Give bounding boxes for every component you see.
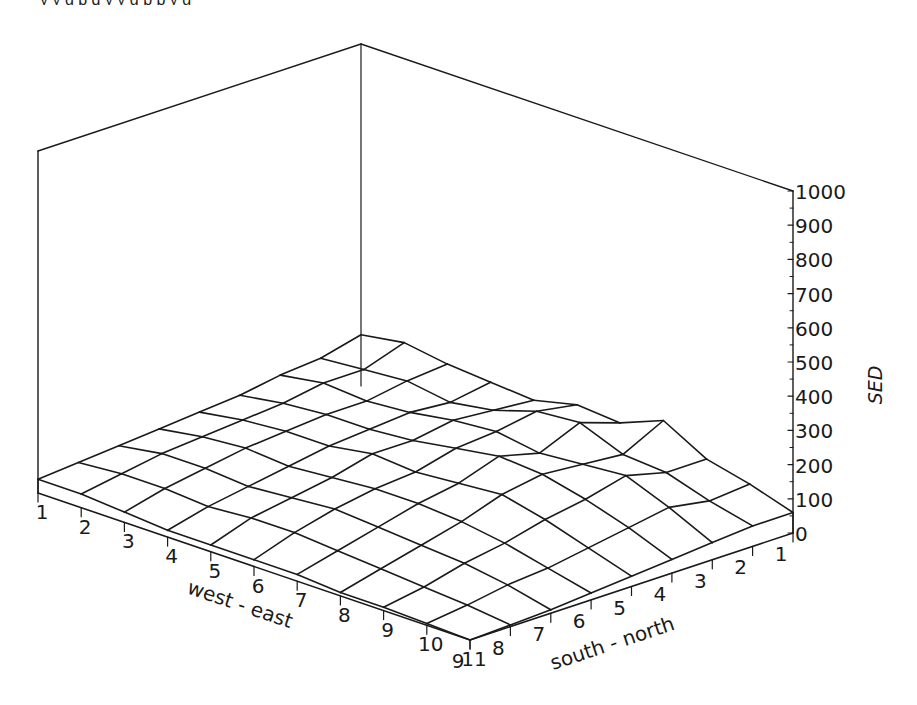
mesh-line <box>159 429 202 437</box>
mesh-line <box>505 543 548 568</box>
mesh-line <box>453 420 496 431</box>
mesh-line <box>427 605 467 624</box>
y-tick-label: 4 <box>654 582 667 606</box>
mesh-line <box>542 464 582 474</box>
mesh-line <box>499 453 539 456</box>
x-tick-label: 1 <box>36 500 49 524</box>
y-tick-label: 2 <box>734 555 747 579</box>
z-tick-label: 0 <box>795 522 808 546</box>
mesh-line <box>246 431 286 448</box>
z-tick-label: 900 <box>795 214 833 238</box>
mesh-line <box>588 548 631 576</box>
mesh-line <box>447 364 490 382</box>
mesh-line <box>629 507 669 527</box>
mesh-line <box>280 358 320 375</box>
z-tick-label: 800 <box>795 248 833 272</box>
mesh-line <box>124 512 167 530</box>
mesh-line <box>292 478 332 498</box>
mesh-line <box>499 456 542 474</box>
mesh-line <box>496 411 536 431</box>
mesh-line <box>326 401 366 414</box>
mesh-line <box>508 585 551 610</box>
mesh-line <box>467 605 510 625</box>
mesh-line <box>491 382 534 400</box>
mesh-line <box>381 569 424 587</box>
mesh-line <box>248 466 288 486</box>
mesh-line <box>453 410 493 420</box>
mesh-line <box>119 446 162 454</box>
mesh-line <box>577 405 620 423</box>
mesh-line <box>548 568 591 593</box>
mesh-line <box>663 421 706 460</box>
mesh-line <box>321 358 364 369</box>
z-tick-label: 600 <box>795 317 833 341</box>
mesh-line <box>326 415 369 430</box>
x-tick-label: 8 <box>338 603 351 627</box>
mesh-line <box>168 530 211 545</box>
mesh-line <box>666 459 706 472</box>
mesh-line <box>540 453 583 464</box>
y-axis-label: south - north <box>547 611 677 674</box>
mesh-line <box>124 489 164 513</box>
box-edge-top-right <box>361 44 793 191</box>
mesh-line <box>588 528 628 548</box>
y-tick-label: 9 <box>452 649 465 673</box>
mesh-line <box>323 370 363 383</box>
mesh-line <box>211 545 254 560</box>
mesh-line <box>370 429 413 440</box>
mesh-line <box>626 476 669 508</box>
mesh-line <box>505 520 545 544</box>
x-tick-label: 6 <box>252 574 265 598</box>
mesh-line <box>620 421 663 423</box>
mesh-line <box>329 429 369 446</box>
mesh-line <box>202 420 242 437</box>
mesh-line <box>548 548 588 568</box>
mesh-line <box>122 454 162 474</box>
mesh-line <box>413 420 453 440</box>
z-tick-label: 200 <box>795 454 833 478</box>
mesh-line <box>545 520 588 548</box>
mesh-line <box>338 527 378 551</box>
mesh-line <box>283 383 323 403</box>
mesh-line <box>162 437 202 454</box>
mesh-line <box>632 559 672 576</box>
mesh-line <box>200 395 240 412</box>
mesh-line <box>329 446 372 454</box>
mesh-line <box>335 509 378 527</box>
mesh-line <box>407 381 450 403</box>
mesh-line <box>202 437 245 448</box>
mesh-line <box>545 499 585 519</box>
surface-mesh <box>38 335 793 640</box>
mesh-line <box>413 441 456 449</box>
mesh-line <box>165 468 205 488</box>
mesh-line <box>467 585 507 605</box>
mesh-line <box>240 375 280 395</box>
mesh-line <box>534 400 577 405</box>
mesh-line <box>294 509 334 533</box>
mesh-line <box>707 459 750 484</box>
mesh-line <box>626 473 666 476</box>
mesh-line <box>424 587 467 605</box>
mesh-line <box>540 423 580 454</box>
z-tick-label: 400 <box>795 385 833 409</box>
mesh-line <box>340 569 380 593</box>
mesh-line <box>208 486 248 506</box>
mesh-line <box>404 343 447 365</box>
mesh-line <box>205 468 248 486</box>
mesh-line <box>378 504 418 528</box>
mesh-line <box>709 501 752 526</box>
mesh-line <box>464 563 507 585</box>
mesh-line <box>450 382 490 402</box>
mesh-line <box>294 533 337 551</box>
mesh-line <box>623 454 666 472</box>
mesh-line <box>418 483 458 503</box>
mesh-line <box>712 526 752 543</box>
mesh-line <box>372 441 412 454</box>
mesh-line <box>323 383 366 401</box>
x-tick-label: 11 <box>461 647 486 671</box>
mesh-line <box>248 486 291 497</box>
y-tick-label: 7 <box>532 622 545 646</box>
mesh-line <box>364 343 404 370</box>
mesh-line <box>367 381 407 401</box>
mesh-line <box>709 484 749 501</box>
